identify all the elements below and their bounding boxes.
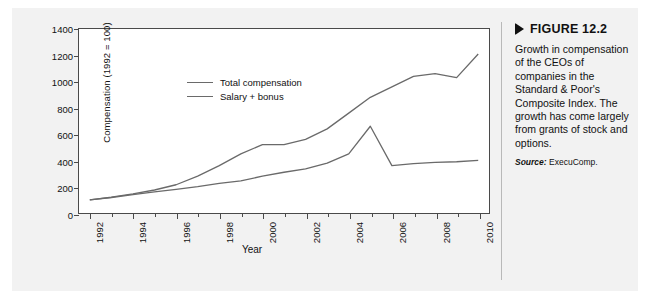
x-minor-tick-mark: [458, 213, 459, 217]
y-tick-mark: [74, 215, 79, 216]
x-minor-tick-mark: [198, 213, 199, 217]
legend-label: Total compensation: [220, 77, 302, 88]
y-tick-label: 1000: [52, 77, 73, 88]
x-tick-mark: [350, 213, 351, 219]
y-tick-label: 600: [57, 130, 73, 141]
chart-legend: Total compensationSalary + bonus: [187, 77, 302, 105]
x-tick-label: 2000: [267, 222, 278, 243]
legend-item: Salary + bonus: [187, 91, 302, 102]
source-label: Source:: [515, 157, 547, 167]
caption-source: Source: ExecuComp.: [515, 157, 633, 167]
x-tick-label: 2004: [354, 222, 365, 243]
x-tick-mark: [263, 213, 264, 219]
figure-number: FIGURE 12.2: [530, 22, 607, 36]
triangle-right-icon: [515, 23, 524, 35]
x-tick-label: 1998: [224, 222, 235, 243]
y-tick-label: 200: [57, 183, 73, 194]
chart-region: Compensation (1992 = 100) 02004006008001…: [12, 8, 492, 291]
x-tick-label: 2006: [397, 222, 408, 243]
x-tick-label: 1992: [94, 222, 105, 243]
caption-divider: [501, 22, 502, 280]
legend-label: Salary + bonus: [220, 91, 284, 102]
legend-swatch: [187, 96, 213, 97]
x-tick-label: 1994: [137, 222, 148, 243]
x-minor-tick-mark: [285, 213, 286, 217]
x-minor-tick-mark: [415, 213, 416, 217]
x-minor-tick-mark: [155, 213, 156, 217]
x-tick-mark: [437, 213, 438, 219]
x-minor-tick-mark: [112, 213, 113, 217]
x-tick-mark: [177, 213, 178, 219]
figure-panel: Compensation (1992 = 100) 02004006008001…: [12, 8, 638, 291]
x-tick-label: 2010: [484, 222, 495, 243]
y-tick-label: 400: [57, 156, 73, 167]
y-tick-label: 1200: [52, 50, 73, 61]
series-line: [90, 126, 478, 200]
source-value: ExecuComp.: [549, 157, 598, 167]
legend-swatch: [187, 82, 213, 83]
legend-item: Total compensation: [187, 77, 302, 88]
plot-area: Compensation (1992 = 100) 02004006008001…: [78, 28, 490, 214]
x-tick-mark: [90, 213, 91, 219]
x-tick-label: 1996: [181, 222, 192, 243]
series-line: [90, 54, 478, 200]
y-tick-label: 0: [68, 210, 73, 221]
y-tick-label: 800: [57, 103, 73, 114]
x-tick-label: 2008: [441, 222, 452, 243]
x-tick-mark: [220, 213, 221, 219]
x-axis-title: Year: [12, 244, 492, 255]
x-minor-tick-mark: [242, 213, 243, 217]
series-lines: [79, 29, 489, 213]
x-tick-mark: [393, 213, 394, 219]
x-minor-tick-mark: [372, 213, 373, 217]
y-tick-label: 1400: [52, 24, 73, 35]
caption-text: Growth in compensation of the CEOs of co…: [515, 43, 633, 150]
x-tick-mark: [480, 213, 481, 219]
x-tick-label: 2002: [311, 222, 322, 243]
caption-header: FIGURE 12.2: [515, 22, 633, 36]
figure-caption: FIGURE 12.2 Growth in compensation of th…: [515, 22, 633, 167]
x-tick-mark: [133, 213, 134, 219]
x-tick-mark: [307, 213, 308, 219]
x-minor-tick-mark: [328, 213, 329, 217]
